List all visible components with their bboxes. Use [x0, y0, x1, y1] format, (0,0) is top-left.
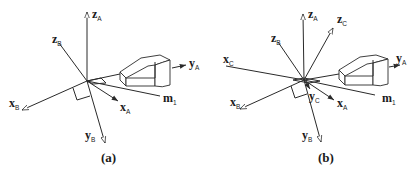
axis-xc-b [226, 66, 304, 80]
axis-xb-a [22, 81, 87, 110]
label-xa-a: xA [120, 100, 131, 115]
panel-a: zA zB xB yB xA m1 yA (a) [9, 7, 200, 165]
label-yb-a: yB [85, 128, 95, 143]
panel-b: zA zC zB xC xB yC xA m1 yB yA (b) [223, 7, 407, 165]
label-ya-a: yA [189, 56, 200, 71]
axis-ya-a [172, 65, 186, 68]
label-ya-b: yA [396, 51, 407, 66]
caption-a: (a) [101, 150, 116, 165]
workpiece-object-b [339, 55, 388, 86]
axis-za-b [303, 14, 304, 80]
label-xc-b: xC [223, 52, 234, 67]
axis-xb-b [240, 80, 304, 109]
label-yb-b: yB [302, 128, 312, 143]
axis-zb-b [278, 42, 304, 80]
axis-zb-a [59, 43, 87, 81]
coordinate-frames-figure: zA zB xB yB xA m1 yA (a) [0, 0, 414, 173]
label-xb-a: xB [9, 96, 19, 111]
label-zb-b: zB [271, 31, 281, 46]
label-m1-a: m1 [163, 91, 177, 106]
label-zc-b: zC [337, 12, 347, 27]
label-yc-b: yC [309, 89, 320, 104]
label-za-b: zA [308, 7, 318, 22]
right-angle-marker-a [73, 88, 90, 100]
label-xa-b: xA [337, 96, 348, 111]
workpiece-object-a [120, 55, 170, 87]
label-zb-a: zB [52, 32, 62, 47]
axis-ya-b [389, 65, 400, 67]
axis-zc-b [304, 28, 333, 80]
label-za-a: zA [92, 7, 102, 22]
label-xb-b: xB [230, 95, 240, 110]
right-angle-marker-b [291, 86, 307, 98]
label-m1-b: m1 [382, 91, 396, 106]
caption-b: (b) [318, 150, 334, 165]
